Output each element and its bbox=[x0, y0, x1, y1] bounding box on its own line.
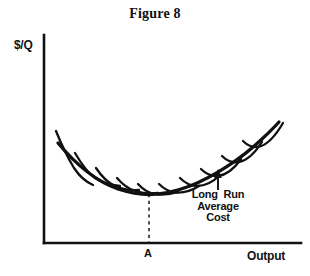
figure-container: Figure 8 $/Q Outp bbox=[0, 0, 310, 276]
long-run-average-cost-annotation: Long Run Average Cost bbox=[182, 189, 254, 224]
short-run-curve bbox=[56, 131, 93, 185]
annotation-line-1: Long Run bbox=[182, 189, 254, 201]
x-axis-label: Output bbox=[247, 249, 285, 263]
long-run-average-cost-chart bbox=[0, 0, 310, 276]
short-run-average-cost-curves bbox=[56, 123, 283, 194]
annotation-line-3: Cost bbox=[182, 212, 254, 224]
y-axis-label: $/Q bbox=[14, 38, 32, 52]
x-axis-tick-label-a: A bbox=[144, 247, 152, 259]
